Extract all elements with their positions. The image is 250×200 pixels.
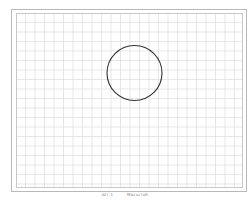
caption-left: Шт.1 bbox=[102, 192, 114, 197]
circle-shape[interactable] bbox=[107, 46, 162, 101]
shape-layer bbox=[0, 0, 250, 200]
caption: Шт.1 Масштаб bbox=[0, 192, 250, 197]
caption-right: Масштаб bbox=[127, 192, 148, 197]
